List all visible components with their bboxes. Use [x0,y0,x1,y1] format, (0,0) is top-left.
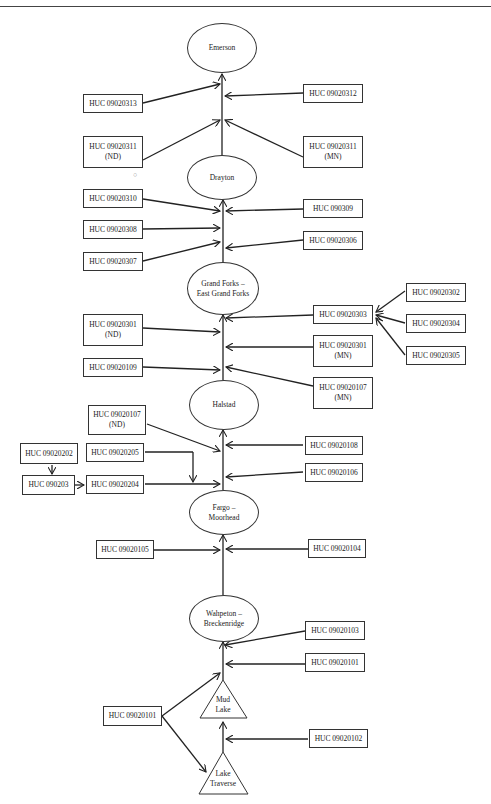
huc-box-09020205: HUC 09020205 [86,443,144,462]
node-mud-lake: Mud Lake [203,695,243,715]
huc-label: HUC 09020308 [89,225,137,235]
huc-label: HUC 09020313 [89,99,137,109]
huc-label: HUC 09020304 [412,319,460,329]
huc-label: HUC 09020107 [93,410,141,420]
huc-box-09020103: HUC 09020103 [305,621,365,640]
huc-label: HUC 09020303 [319,310,367,320]
huc-label: HUC 09020301 [89,320,137,330]
huc-label: HUC 09020301 [319,341,367,351]
huc-label: HUC 09020311 [309,142,356,152]
huc-box-09020107-mn: HUC 09020107(MN) [313,377,373,409]
node-emerson-label: Emerson [209,43,236,53]
huc-label: HUC 09020104 [313,544,361,554]
huc-label: HUC 09020109 [89,363,137,373]
huc-label: HUC 09020103 [311,626,359,636]
huc-box-09020107-nd: HUC 09020107(ND) [88,405,146,435]
huc-state-label: (ND) [105,330,121,340]
huc-label: HUC 09020107 [319,383,367,393]
huc-box-09020307: HUC 09020307 [83,252,143,271]
huc-box-09020102: HUC 09020102 [309,729,368,748]
huc-label: HUC 090203 [28,480,68,490]
huc-box-09020109: HUC 09020109 [83,358,143,377]
huc-box-09020204: HUC 09020204 [86,475,144,494]
node-fargo-label-2: Moorhead [209,513,240,523]
huc-label: HUC 09020311 [89,142,136,152]
huc-box-09020104: HUC 09020104 [308,539,366,558]
huc-box-090203: HUC 090203 [22,475,75,495]
node-drayton: Drayton [187,155,257,200]
node-lake-traverse: Lake Traverse [203,769,243,789]
huc-box-09020303: HUC 09020303 [313,305,373,324]
node-mud-lake-label-2: Lake [203,705,243,715]
huc-state-label: (MN) [334,393,351,403]
huc-state-label: (ND) [105,152,121,162]
huc-label: HUC 09020106 [310,468,358,478]
huc-state-label: (ND) [109,420,125,430]
node-wahpeton-breckenridge: Wahpeton – Breckenridge [189,595,259,642]
huc-box-090309: HUC 090309 [303,199,363,218]
huc-label: HUC 09020205 [91,448,139,458]
huc-box-09020308: HUC 09020308 [83,220,143,239]
huc-box-09020302: HUC 09020302 [406,283,466,302]
huc-label: HUC 09020108 [310,441,358,451]
node-emerson: Emerson [187,23,257,73]
node-grand-forks-label-1: Grand Forks – [201,279,244,289]
node-grand-forks: Grand Forks – East Grand Forks [187,262,259,315]
huc-label: HUC 09020101 [311,658,359,668]
huc-label: HUC 09020202 [25,449,73,459]
huc-box-09020202: HUC 09020202 [20,443,78,464]
huc-box-09020304: HUC 09020304 [406,314,466,333]
huc-box-09020106: HUC 09020106 [305,463,363,482]
huc-box-09020311-nd: HUC 09020311(ND) [83,136,143,168]
node-lake-traverse-label-1: Lake [203,769,243,779]
node-mud-lake-label-1: Mud [203,695,243,705]
huc-box-09020311-mn: HUC 09020311(MN) [303,136,363,168]
huc-label: HUC 09020105 [101,545,149,555]
huc-label: HUC 09020312 [309,89,357,99]
huc-box-09020313: HUC 09020313 [83,94,143,113]
huc-label: HUC 09020310 [89,194,137,204]
node-wahpeton-label-2: Breckenridge [204,619,244,629]
huc-label: HUC 090309 [313,204,353,214]
huc-box-09020301-mn: HUC 09020301(MN) [313,335,373,367]
huc-label: HUC 09020305 [412,351,460,361]
huc-box-09020101-right: HUC 09020101 [305,653,365,672]
huc-state-label: (MN) [324,152,341,162]
huc-box-09020305: HUC 09020305 [406,346,466,365]
node-lake-traverse-label-2: Traverse [203,779,243,789]
huc-label: HUC 09020102 [315,734,363,744]
huc-box-09020301-nd: HUC 09020301(ND) [83,314,143,346]
huc-box-09020105: HUC 09020105 [96,540,154,559]
node-fargo-moorhead: Fargo – Moorhead [189,490,259,535]
huc-label: HUC 09020307 [89,257,137,267]
node-halstad-label: Halstad [213,400,236,410]
huc-box-09020306: HUC 09020306 [303,231,363,250]
huc-box-09020101-left: HUC 09020101 [103,706,162,726]
huc-label: HUC 09020101 [109,711,157,721]
huc-box-09020108: HUC 09020108 [305,436,363,455]
huc-label: HUC 09020306 [309,236,357,246]
stray-mark: ○ [133,171,137,179]
huc-label: HUC 09020302 [412,288,460,298]
node-fargo-label-1: Fargo – [213,503,236,513]
huc-state-label: (MN) [334,351,351,361]
huc-label: HUC 09020204 [91,480,139,490]
node-wahpeton-label-1: Wahpeton – [206,609,242,619]
node-grand-forks-label-2: East Grand Forks [197,289,250,299]
huc-box-09020312: HUC 09020312 [303,84,363,103]
node-drayton-label: Drayton [210,173,235,183]
node-halstad: Halstad [189,380,259,430]
huc-box-09020310: HUC 09020310 [83,189,143,208]
